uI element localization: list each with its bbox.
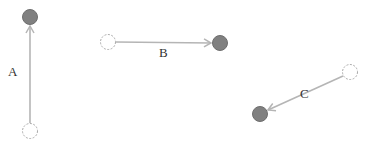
label-b: B [159,45,168,61]
label-a: A [8,64,17,80]
label-c: C [300,86,309,102]
end-node-b [213,36,228,51]
start-node-b [101,35,116,50]
end-node-c [253,107,268,122]
start-node-a [23,124,38,139]
end-node-a [23,10,38,25]
diagram-canvas [0,0,366,146]
start-node-c [343,65,358,80]
arrow-a [23,10,38,139]
